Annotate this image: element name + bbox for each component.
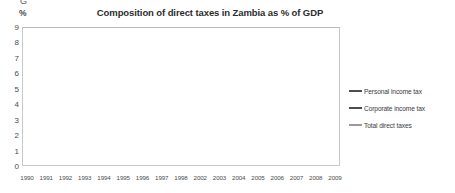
legend-swatch-icon <box>349 124 362 127</box>
x-axis-tick: 1996 <box>136 174 149 181</box>
legend-label: Corporate income tax <box>364 105 425 112</box>
x-axis-tick: 2006 <box>271 174 284 181</box>
x-axis-tick: 1993 <box>78 174 91 181</box>
x-axis-tick-labels: 1990199119921993199419951996199719982002… <box>0 174 455 188</box>
plot-area <box>22 27 340 166</box>
y-axis-tick: 5 <box>5 84 19 93</box>
chart-title: Composition of direct taxes in Zambia as… <box>0 7 420 18</box>
x-axis-tick: 2008 <box>309 174 322 181</box>
legend-swatch-icon <box>349 107 362 110</box>
y-axis-tick: 9 <box>5 23 19 32</box>
x-axis-tick: 2007 <box>290 174 303 181</box>
x-axis-tick: 1990 <box>20 174 33 181</box>
y-axis-tick: 7 <box>5 53 19 62</box>
x-axis-tick: 1997 <box>155 174 168 181</box>
plot-border <box>22 27 340 166</box>
chart-legend: Personal income taxCorporate income taxT… <box>349 84 453 135</box>
x-axis-tick: 2005 <box>251 174 264 181</box>
y-axis-tick: 1 <box>5 146 19 155</box>
legend-item[interactable]: Total direct taxes <box>349 118 453 132</box>
y-axis-tick: 0 <box>5 162 19 171</box>
x-axis-tick: 2004 <box>232 174 245 181</box>
x-axis-tick: 1994 <box>97 174 110 181</box>
x-axis-tick: 2003 <box>213 174 226 181</box>
y-axis-tick: 8 <box>5 38 19 47</box>
clipped-glyph: G <box>20 0 27 6</box>
x-axis-tick: 1992 <box>59 174 72 181</box>
y-axis-tick: 4 <box>5 100 19 109</box>
chart-container: G % Composition of direct taxes in Zambi… <box>0 0 455 193</box>
legend-label: Total direct taxes <box>364 122 412 129</box>
legend-item[interactable]: Personal income tax <box>349 84 453 98</box>
x-axis-tick: 2002 <box>194 174 207 181</box>
x-axis-tick: 1998 <box>174 174 187 181</box>
legend-item[interactable]: Corporate income tax <box>349 101 453 115</box>
x-axis-tick: 1991 <box>40 174 53 181</box>
x-axis-tick: 2009 <box>328 174 341 181</box>
y-axis-tick: 3 <box>5 115 19 124</box>
x-axis-tick: 1995 <box>117 174 130 181</box>
y-axis-tick: 6 <box>5 69 19 78</box>
legend-swatch-icon <box>349 90 362 93</box>
legend-label: Personal income tax <box>364 88 422 95</box>
y-axis-tick: 2 <box>5 131 19 140</box>
